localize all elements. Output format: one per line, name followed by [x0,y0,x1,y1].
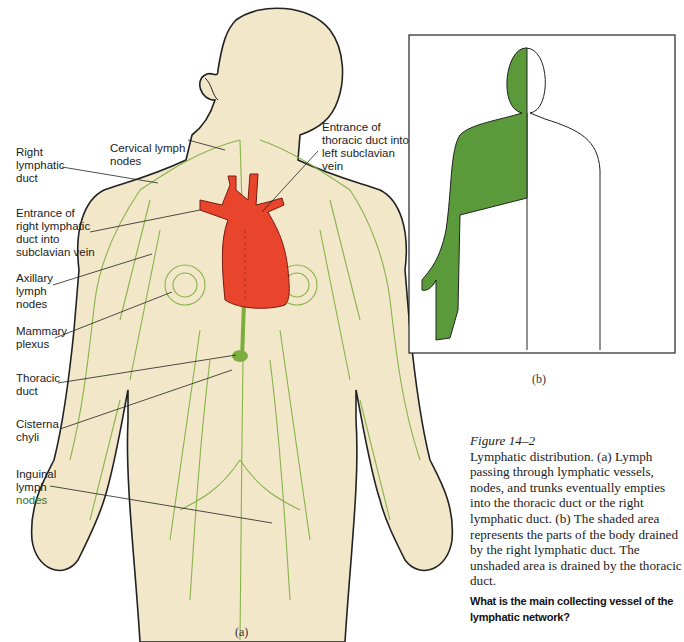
caption-body: Lymphatic distribution. (a) Lymph passin… [470,449,682,589]
figure-caption: Figure 14–2 Lymphatic distribution. (a) … [470,433,684,625]
caption-title: Figure 14–2 [470,433,684,449]
label-inguinal-nodes: nodes [16,494,47,507]
label-thoracic-duct: Thoracic duct [16,372,60,398]
label-entrance-thoracic-duct: Entrance of thoracic duct into left subc… [322,121,409,173]
label-cisterna-chyli: Cisterna chyli [16,418,59,444]
figure-b-sublabel: (b) [532,372,546,387]
label-right-lymphatic-duct: Right lymphatic duct [16,146,65,185]
label-cervical-lymph-nodes: Cervical lymph nodes [110,142,185,168]
label-entrance-right-lymphatic: Entrance of right lymphatic duct into su… [16,207,95,259]
label-axillary-lymph-nodes: Axillary lymph nodes [16,272,53,311]
label-inguinal-lymph: Inguinal lymph [16,468,56,494]
figure-a-sublabel: (a) [235,625,248,640]
caption-question: What is the main collecting vessel of th… [470,593,684,625]
label-mammary-plexus: Mammary plexus [16,325,67,351]
